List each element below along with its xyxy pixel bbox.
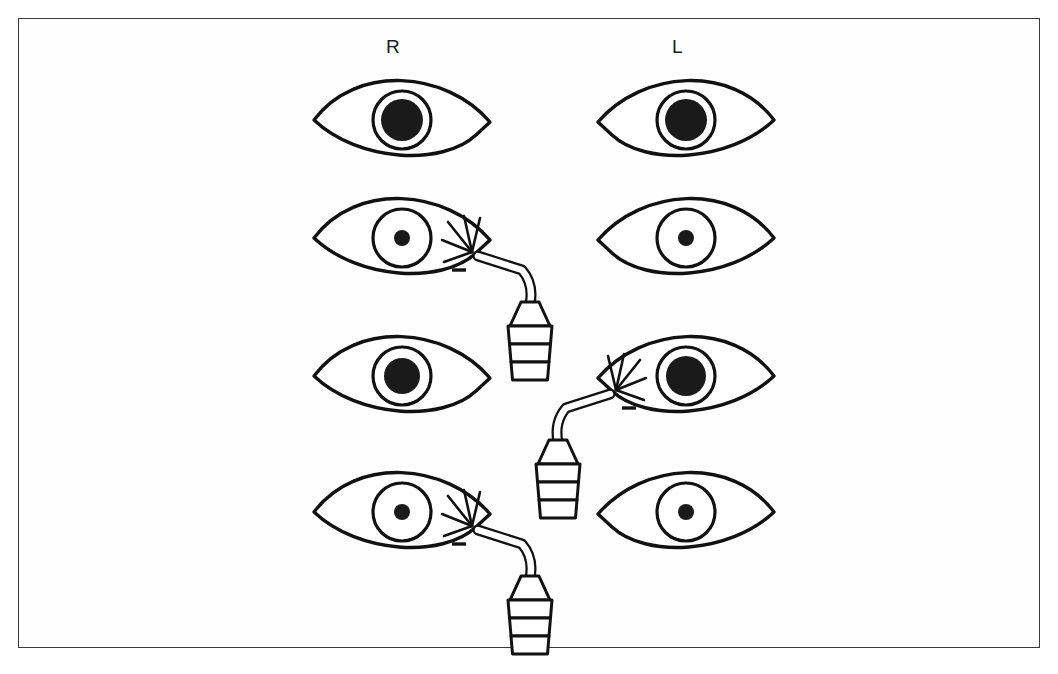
eye-l-row4[interactable] bbox=[598, 473, 774, 548]
eye-r-row2[interactable] bbox=[314, 199, 490, 274]
eye-l-row3[interactable] bbox=[598, 337, 774, 412]
pupil-icon bbox=[666, 356, 706, 396]
penlight-shoulder bbox=[510, 576, 550, 600]
penlight-barrel-band bbox=[508, 600, 552, 618]
pupil-icon bbox=[678, 230, 694, 246]
penlight-barrel-band bbox=[536, 464, 580, 482]
eye-l-row2[interactable] bbox=[598, 199, 774, 274]
penlight-shoulder bbox=[510, 302, 550, 326]
eye-r-row1[interactable] bbox=[314, 81, 490, 156]
pupil-icon bbox=[381, 99, 423, 141]
eye-l-row1[interactable] bbox=[598, 81, 774, 156]
pupil-icon bbox=[384, 358, 420, 394]
penlight-shoulder bbox=[538, 440, 578, 464]
eye-r-row4[interactable] bbox=[314, 473, 490, 548]
figure-drawing-canvas bbox=[0, 0, 1058, 674]
penlight-barrel-band bbox=[539, 500, 577, 518]
penlight-barrel-band bbox=[511, 636, 549, 654]
penlight-barrel-band bbox=[510, 618, 551, 636]
eye-row-1 bbox=[314, 81, 774, 156]
pupil-icon bbox=[678, 504, 694, 520]
penlight-barrel-band bbox=[510, 344, 551, 362]
pupil-icon bbox=[394, 230, 410, 246]
pupil-icon bbox=[665, 99, 707, 141]
pupil-icon bbox=[394, 504, 410, 520]
penlight-barrel-band bbox=[511, 362, 549, 380]
pupil-reflex-figure: R L bbox=[0, 0, 1058, 674]
penlight-barrel-band bbox=[538, 482, 579, 500]
penlight-barrel-band bbox=[508, 326, 552, 344]
eye-r-row3[interactable] bbox=[314, 337, 490, 412]
